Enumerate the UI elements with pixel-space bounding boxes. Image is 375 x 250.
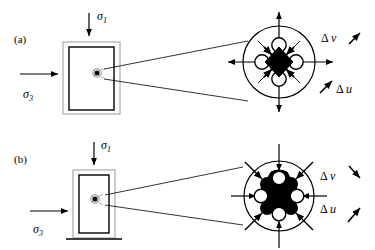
- magnifier-cone-bottom-a: [104, 79, 248, 101]
- sigma1-label-b: σ1: [101, 138, 111, 154]
- delta-v-arrow-a: [349, 33, 360, 44]
- magnifier-cone-top-a: [104, 41, 248, 69]
- panel-a-label: (a): [14, 33, 27, 46]
- delta-u-arrow-a: [320, 81, 332, 93]
- magnified-point-marker-a: [93, 69, 105, 79]
- specimen-body-b: [79, 175, 109, 233]
- magnifier-cone-top-b: [105, 167, 243, 195]
- panel-b-label: (b): [14, 153, 27, 166]
- delta-u-arrow-b: [348, 208, 360, 222]
- sigma1-label-a: σ1: [97, 9, 107, 25]
- specimen-membrane-a: [63, 42, 120, 114]
- panel-b: (b) σ1 σ3: [14, 138, 360, 248]
- magnifier-cone-bottom-b: [105, 205, 243, 225]
- delta-v-label-a: Δ v: [321, 31, 337, 45]
- delta-u-label-a: Δ u: [336, 82, 352, 96]
- delta-v-label-b: Δ v: [320, 169, 336, 183]
- specimen-body-a: [69, 47, 114, 110]
- magnified-point-marker-b: [91, 195, 103, 205]
- panel-a: (a) σ1 σ3: [14, 9, 360, 114]
- diagram-svg: (a) σ1 σ3: [0, 0, 375, 250]
- delta-v-arrow-b: [349, 166, 360, 178]
- delta-u-label-b: Δ u: [320, 202, 336, 216]
- sigma3-label-a: σ3: [23, 87, 33, 103]
- sigma3-label-b: σ3: [33, 222, 43, 238]
- figure-canvas: (a) σ1 σ3: [0, 0, 375, 250]
